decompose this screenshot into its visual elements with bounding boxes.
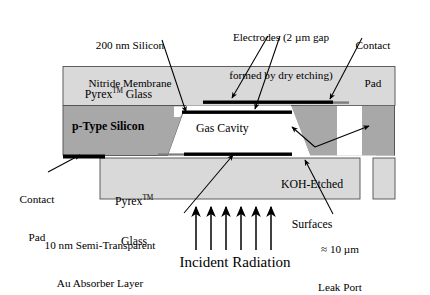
label-membrane-line1: 200 nm Silicon (60, 39, 200, 52)
region-label-gas-cavity: Gas Cavity (196, 122, 249, 135)
electrode-bottom-tail (158, 153, 184, 155)
label-koh-line1: KOH-Etched (248, 178, 376, 191)
region-label-p-type-silicon: p-Type Silicon (72, 120, 144, 133)
label-contact-pad-left-line1: Contact (6, 193, 68, 206)
pyrex-bottom-glass-right-block (373, 158, 395, 199)
label-electrodes-line1: Electrodes (2 µm gap (206, 31, 356, 44)
label-contact-pad-top-line1: Contact (340, 39, 406, 52)
region-label-pyrex-top-tm: TM (112, 86, 123, 95)
label-contact-pad-top: Contact Pad (340, 14, 406, 114)
region-label-pyrex-top-tail: Glass (123, 87, 152, 101)
region-label-pyrex-top-main: Pyrex (85, 87, 113, 101)
contact-pad-left-bar (63, 155, 105, 159)
label-absorber-line2: Au Absorber Layer (12, 277, 188, 290)
label-leak-port-line2: Leak Port (302, 281, 378, 294)
region-label-pyrex-top: PyrexTM Glass (73, 74, 152, 115)
region-label-pyrex-bottom-main: Pyrex (115, 194, 143, 208)
label-electrodes-line2: formed by dry etching) (206, 69, 356, 82)
label-incident-radiation: Incident Radiation (142, 254, 328, 271)
region-label-pyrex-bottom-tm: TM (142, 193, 153, 202)
label-absorber-line1: 10 nm Semi-Transparent (12, 239, 188, 252)
label-electrodes: Electrodes (2 µm gap formed by dry etchi… (206, 6, 356, 106)
region-label-pyrex-bottom-line1: PyrexTM (104, 194, 164, 208)
label-contact-pad-top-line2: Pad (340, 77, 406, 90)
